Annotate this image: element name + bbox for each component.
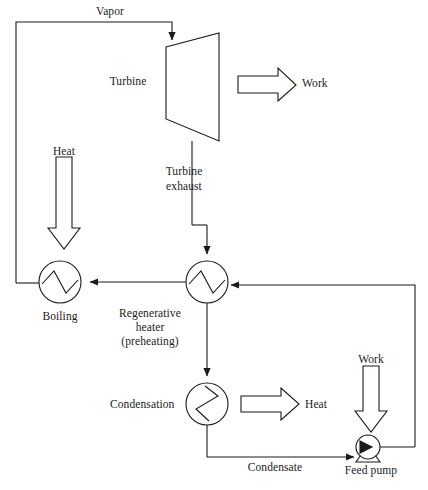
heat-input-block-arrow bbox=[48, 157, 80, 249]
label-boiling: Boiling bbox=[42, 310, 77, 323]
stream-vapor bbox=[16, 22, 172, 283]
label-turbine: Turbine bbox=[110, 75, 147, 88]
label-feed-pump: Feed pump bbox=[345, 464, 397, 477]
stream-pump-to-heater bbox=[231, 285, 415, 447]
label-vapor: Vapor bbox=[96, 5, 124, 18]
label-heat-condenser: Heat bbox=[305, 398, 327, 411]
work-input-block-arrow bbox=[355, 366, 387, 432]
label-regenerative-heater-line3: (preheating) bbox=[121, 335, 178, 348]
rankine-cycle-diagram: Vapor Turbine Work Heat Turbine exhaust … bbox=[0, 0, 428, 490]
stream-condensate bbox=[207, 425, 354, 457]
regenerative-heater-zigzag bbox=[189, 271, 225, 293]
feed-pump-impeller-icon bbox=[360, 441, 372, 453]
heat-rejected-block-arrow bbox=[241, 388, 299, 420]
label-condensation: Condensation bbox=[110, 398, 174, 411]
label-condensate: Condensate bbox=[248, 461, 303, 474]
label-heat-boiler: Heat bbox=[53, 145, 75, 158]
condensation-heat-exchanger-zigzag bbox=[196, 386, 218, 421]
label-turbine-exhaust-line1: Turbine bbox=[166, 165, 203, 178]
label-regenerative-heater-line2: heater bbox=[136, 321, 165, 334]
label-regenerative-heater-line1: Regenerative bbox=[119, 307, 181, 320]
label-turbine-exhaust-line2: exhaust bbox=[166, 180, 202, 193]
work-output-block-arrow bbox=[238, 68, 296, 101]
turbine-body bbox=[166, 33, 219, 141]
label-work-pump: Work bbox=[358, 353, 384, 366]
diagram-canvas bbox=[0, 0, 428, 490]
boiling-heat-exchanger-zigzag bbox=[42, 271, 78, 293]
label-work-turbine: Work bbox=[302, 77, 328, 90]
